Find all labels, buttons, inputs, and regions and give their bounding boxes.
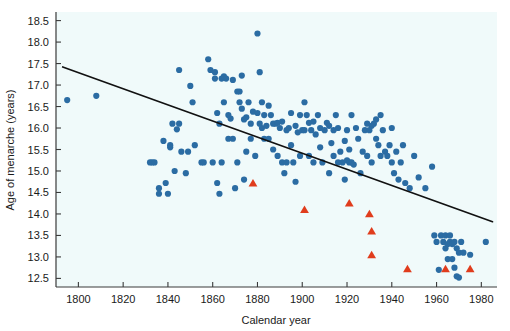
data-point-circle	[263, 123, 269, 129]
data-point-circle	[64, 97, 70, 103]
data-point-circle	[373, 116, 379, 122]
data-point-circle	[281, 170, 287, 176]
data-point-circle	[290, 159, 296, 165]
data-point-circle	[416, 174, 422, 180]
data-point-circle	[395, 176, 401, 182]
data-point-circle	[431, 232, 437, 238]
data-point-circle	[239, 106, 245, 112]
data-point-circle	[163, 180, 169, 186]
data-point-circle	[212, 76, 218, 82]
x-axis-title: Calendar year	[241, 314, 310, 326]
data-point-circle	[189, 99, 195, 105]
y-tick-label: 17.5	[28, 58, 49, 70]
data-point-circle	[429, 164, 435, 170]
data-point-circle	[245, 99, 251, 105]
data-point-circle	[254, 30, 260, 36]
data-point-circle	[270, 146, 276, 152]
data-point-circle	[373, 136, 379, 142]
data-point-circle	[156, 185, 162, 191]
data-point-circle	[232, 185, 238, 191]
data-point-circle	[377, 112, 383, 118]
data-point-circle	[212, 69, 218, 75]
data-point-circle	[288, 110, 294, 116]
data-point-circle	[279, 118, 285, 124]
data-point-circle	[169, 121, 175, 127]
data-point-circle	[216, 191, 222, 197]
x-tick-label: 1860	[200, 293, 224, 305]
data-point-circle	[330, 153, 336, 159]
y-tick-label: 17.0	[28, 79, 49, 91]
data-point-circle	[377, 153, 383, 159]
data-point-circle	[411, 153, 417, 159]
data-point-circle	[292, 179, 298, 185]
data-point-circle	[297, 112, 303, 118]
x-tick-label: 1800	[66, 293, 90, 305]
data-point-circle	[326, 170, 332, 176]
x-tick-label: 1840	[156, 293, 180, 305]
data-point-circle	[236, 99, 242, 105]
data-point-circle	[304, 112, 310, 118]
data-point-circle	[214, 110, 220, 116]
data-point-circle	[174, 126, 180, 132]
y-tick-label: 14.5	[28, 186, 49, 198]
y-tick-label: 18.0	[28, 36, 49, 48]
data-point-circle	[301, 127, 307, 133]
data-point-circle	[384, 153, 390, 159]
x-tick-label: 1900	[290, 293, 314, 305]
data-point-circle	[391, 170, 397, 176]
data-point-circle	[286, 125, 292, 131]
data-point-circle	[393, 149, 399, 155]
data-point-circle	[288, 142, 294, 148]
data-point-circle	[301, 99, 307, 105]
data-point-circle	[360, 149, 366, 155]
data-point-circle	[402, 180, 408, 186]
y-tick-label: 18.5	[28, 15, 49, 27]
data-point-circle	[308, 127, 314, 133]
y-axis-title: Age of menarche (years)	[4, 89, 16, 210]
data-point-circle	[176, 121, 182, 127]
y-tick-label: 13.5	[28, 229, 49, 241]
data-point-circle	[310, 118, 316, 124]
data-point-circle	[433, 239, 439, 245]
data-point-circle	[167, 144, 173, 150]
data-point-circle	[342, 176, 348, 182]
data-point-circle	[342, 138, 348, 144]
data-point-circle	[205, 56, 211, 62]
data-point-circle	[283, 159, 289, 165]
data-point-circle	[192, 142, 198, 148]
data-point-circle	[223, 76, 229, 82]
data-point-circle	[310, 159, 316, 165]
data-point-circle	[460, 250, 466, 256]
scatter-chart: 12.513.013.514.014.515.015.516.016.517.0…	[0, 0, 510, 331]
data-point-circle	[292, 123, 298, 129]
data-point-circle	[183, 170, 189, 176]
data-point-circle	[335, 125, 341, 131]
y-tick-label: 15.5	[28, 144, 49, 156]
data-point-circle	[317, 144, 323, 150]
y-tick-label: 12.5	[28, 272, 49, 284]
data-point-circle	[165, 191, 171, 197]
data-point-circle	[456, 274, 462, 280]
data-point-circle	[243, 149, 249, 155]
data-point-circle	[458, 239, 464, 245]
data-point-circle	[268, 112, 274, 118]
data-point-circle	[436, 267, 442, 273]
data-point-circle	[176, 67, 182, 73]
data-point-circle	[400, 142, 406, 148]
data-point-circle	[234, 159, 240, 165]
data-point-circle	[257, 69, 263, 75]
data-point-circle	[322, 127, 328, 133]
data-point-circle	[467, 252, 473, 258]
x-tick-label: 1880	[245, 293, 269, 305]
data-point-circle	[483, 239, 489, 245]
y-tick-label: 13.0	[28, 251, 49, 263]
data-point-circle	[447, 232, 453, 238]
data-point-circle	[348, 112, 354, 118]
data-point-circle	[156, 191, 162, 197]
data-point-circle	[230, 136, 236, 142]
data-point-circle	[315, 112, 321, 118]
data-point-circle	[151, 159, 157, 165]
data-point-circle	[451, 239, 457, 245]
data-point-circle	[261, 112, 267, 118]
data-point-circle	[449, 256, 455, 262]
